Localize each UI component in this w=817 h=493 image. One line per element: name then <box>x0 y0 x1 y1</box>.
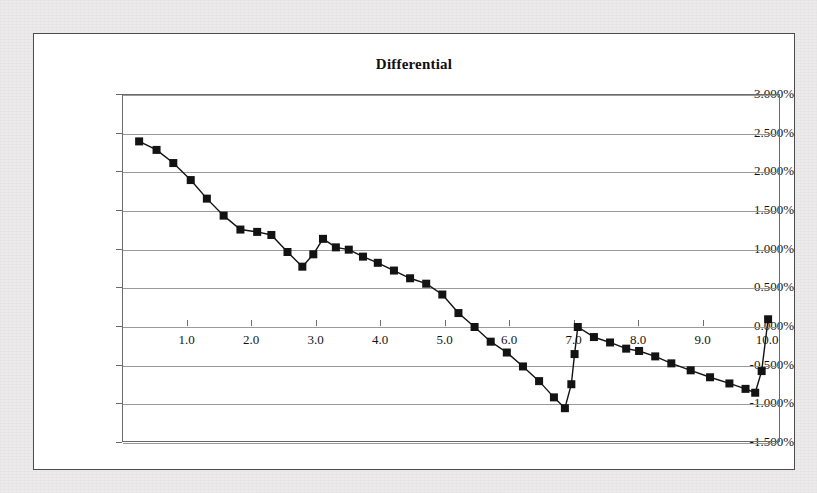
series-marker <box>135 137 143 145</box>
series-marker <box>651 352 659 360</box>
chart-title: Differential <box>34 56 794 73</box>
series-marker <box>764 315 772 323</box>
series-marker <box>309 250 317 258</box>
series-marker <box>236 226 244 234</box>
y-axis-tick-mark <box>116 442 122 443</box>
series-marker <box>725 379 733 387</box>
series-marker <box>622 345 630 353</box>
series-marker <box>406 274 414 282</box>
series-marker <box>503 349 511 357</box>
series-marker <box>635 347 643 355</box>
series-marker <box>561 404 569 412</box>
series-marker <box>220 212 228 220</box>
series-marker <box>319 235 327 243</box>
series-marker <box>438 291 446 299</box>
series-marker <box>153 146 161 154</box>
series-marker <box>332 243 340 251</box>
series-marker <box>590 333 598 341</box>
series-marker <box>550 393 558 401</box>
series-marker <box>751 389 759 397</box>
series-marker <box>390 267 398 275</box>
series-marker <box>667 359 675 367</box>
series-marker <box>374 259 382 267</box>
series-marker <box>519 362 527 370</box>
scanned-page-background: Differential 3.000%2.500%2.000%1.500%1.0… <box>0 0 817 493</box>
chart-card: Differential 3.000%2.500%2.000%1.500%1.0… <box>33 33 795 470</box>
series-plot <box>123 95 781 443</box>
series-marker <box>422 280 430 288</box>
series-marker <box>253 228 261 236</box>
series-line <box>139 141 768 408</box>
series-marker <box>187 176 195 184</box>
series-marker <box>567 380 575 388</box>
series-marker <box>284 248 292 256</box>
series-marker <box>758 367 766 375</box>
series-marker <box>706 373 714 381</box>
series-marker <box>169 159 177 167</box>
series-marker <box>345 246 353 254</box>
series-marker <box>267 231 275 239</box>
series-marker <box>454 309 462 317</box>
series-marker <box>574 323 582 331</box>
series-marker <box>359 253 367 261</box>
plot-area <box>122 94 780 442</box>
series-marker <box>535 377 543 385</box>
series-marker <box>742 385 750 393</box>
series-marker <box>203 195 211 203</box>
gridline <box>123 443 779 444</box>
series-marker <box>687 366 695 374</box>
series-marker <box>298 263 306 271</box>
series-marker <box>606 338 614 346</box>
series-marker <box>487 338 495 346</box>
series-marker <box>571 350 579 358</box>
series-marker <box>471 323 479 331</box>
